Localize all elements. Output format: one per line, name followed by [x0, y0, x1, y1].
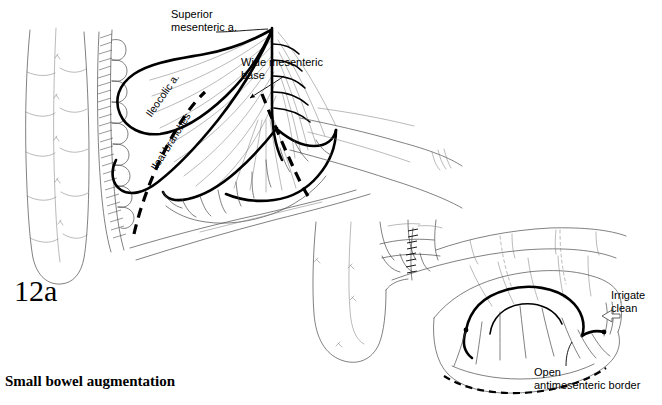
- figure-number: 12a: [14, 276, 57, 306]
- canvas-background: [0, 0, 662, 405]
- label-irrigate-clean: Irrigate clean: [611, 289, 645, 314]
- vessel-marker: [464, 328, 469, 333]
- label-superior-mesenteric-artery: Superior mesenteric a.: [171, 8, 237, 33]
- figure-page: .hv { fill:none; stroke:#000; stroke-wid…: [0, 0, 662, 405]
- label-wide-mesenteric-base: Wide mesenteric base: [241, 56, 323, 81]
- figure-caption: Small bowel augmentation: [5, 373, 175, 390]
- vessel-marker: [602, 330, 607, 335]
- surgical-illustration: .hv { fill:none; stroke:#000; stroke-wid…: [0, 0, 662, 405]
- label-open-antimesenteric-border: Open antimesenteric border: [534, 366, 640, 391]
